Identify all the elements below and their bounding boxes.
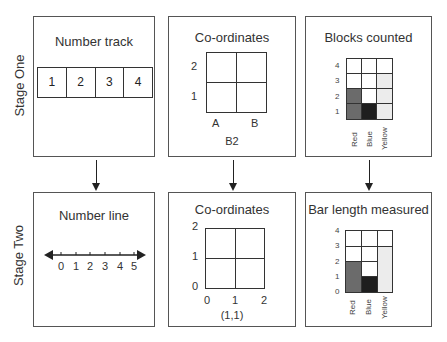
blue-block (361, 103, 377, 120)
tick-label: 2 (87, 260, 93, 272)
panel-title: Number track (34, 34, 154, 49)
y-label: 2 (335, 92, 339, 101)
blue-bar (362, 276, 378, 292)
track-cell: 3 (96, 68, 125, 97)
tick-label: 0 (58, 260, 64, 272)
category-label: Yellow (380, 296, 389, 319)
category-label: Blue (365, 131, 374, 147)
y-label: 0 (192, 280, 198, 292)
coordinate-grid (205, 228, 265, 289)
y-label: 2 (335, 257, 339, 266)
y-label: 1 (335, 272, 339, 281)
y-label: 3 (335, 76, 339, 85)
red-block (346, 103, 362, 120)
arrow-head-icon (365, 183, 373, 191)
arrow-head-icon (229, 183, 237, 191)
panel-number-track: Number track 1 2 3 4 (33, 16, 155, 157)
y-label: 4 (335, 61, 339, 70)
number-track: 1 2 3 4 (37, 67, 153, 98)
tick-label: 1 (73, 260, 79, 272)
category-label: Red (350, 132, 359, 147)
panel-coordinates-one: Co-ordinates 2 1 A B B2 (168, 16, 296, 157)
coordinate-caption: B2 (169, 135, 295, 147)
yellow-bar (378, 247, 392, 292)
panel-bar-length: Bar length measured 4 3 2 1 0 Red Blue Y… (305, 192, 432, 327)
track-cell: 4 (124, 68, 152, 97)
panel-blocks-counted: Blocks counted 4 3 2 1 Red Blue Yellow (305, 16, 432, 157)
red-bar (346, 261, 362, 292)
y-label: 2 (192, 220, 198, 232)
coordinate-caption: (1,1) (169, 309, 295, 321)
y-label: 1 (335, 107, 339, 116)
number-line (34, 245, 156, 275)
panel-title: Blocks counted (306, 30, 431, 45)
y-label: 4 (335, 226, 339, 235)
category-label: Yellow (380, 127, 389, 150)
tick-label: 3 (102, 260, 108, 272)
y-label: 1 (191, 90, 197, 102)
yellow-block (376, 88, 393, 104)
x-label: 1 (232, 294, 238, 306)
x-label: A (212, 117, 219, 129)
coordinate-grid (206, 52, 267, 113)
arrow-down (233, 160, 234, 183)
x-label: 2 (261, 294, 267, 306)
y-label: 1 (192, 250, 198, 262)
category-label: Red (348, 300, 357, 315)
y-label: 0 (335, 287, 339, 296)
category-label: Blue (364, 299, 373, 315)
y-label: 3 (335, 241, 339, 250)
tick-label: 5 (131, 260, 137, 272)
y-label: 2 (191, 60, 197, 72)
bar-grid (345, 230, 393, 293)
red-block (346, 88, 362, 104)
tick-label: 4 (117, 260, 123, 272)
stage-one-label: Stage One (12, 54, 27, 116)
x-label: B (251, 117, 258, 129)
block-grid (346, 58, 393, 120)
x-label: 0 (204, 294, 210, 306)
track-cell: 1 (38, 68, 67, 97)
arrow-head-icon (92, 183, 100, 191)
stage-two-label: Stage Two (11, 225, 26, 286)
panel-title: Bar length measured (306, 202, 431, 217)
panel-title: Co-ordinates (169, 30, 295, 45)
track-cell: 2 (67, 68, 96, 97)
panel-title: Co-ordinates (169, 202, 295, 217)
panel-coordinates-two: Co-ordinates 2 1 0 0 1 2 (1,1) (168, 192, 296, 327)
yellow-block (376, 103, 393, 120)
arrow-down (96, 160, 97, 183)
yellow-block (376, 73, 393, 89)
arrow-down (369, 160, 370, 183)
panel-title: Number line (34, 208, 154, 223)
panel-number-line: Number line 0 1 2 3 4 5 (33, 192, 155, 327)
